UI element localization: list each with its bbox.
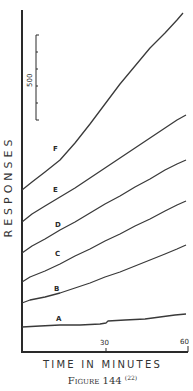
figure-caption: Figure 144 (22) <box>0 374 193 386</box>
y-axis-label: RESPONSES <box>2 117 15 257</box>
figure-caption-ref: (22) <box>125 374 137 381</box>
cumulative-response-chart: 30 60 500 A B C D E F <box>0 0 193 391</box>
x-tick-label-60: 60 <box>180 338 189 346</box>
scale-bar-label: 500 <box>26 74 34 87</box>
curve-label-e: E <box>53 186 58 194</box>
curve-label-a: A <box>56 315 62 323</box>
curve-b <box>22 245 186 303</box>
curve-label-b: B <box>54 285 59 293</box>
x-tick-label-30: 30 <box>100 339 109 347</box>
curve-a <box>22 314 186 327</box>
x-axis-label: TIME IN MINUTES <box>0 359 193 370</box>
curve-d <box>22 160 186 253</box>
curve-c <box>22 201 186 282</box>
curve-f <box>22 13 183 190</box>
figure-caption-text: Figure 144 <box>68 375 122 386</box>
curve-label-c: C <box>55 250 60 258</box>
curve-e <box>22 115 186 222</box>
scale-bar: 500 <box>26 35 39 120</box>
curve-label-f: F <box>53 145 58 153</box>
curve-label-d: D <box>55 221 61 229</box>
